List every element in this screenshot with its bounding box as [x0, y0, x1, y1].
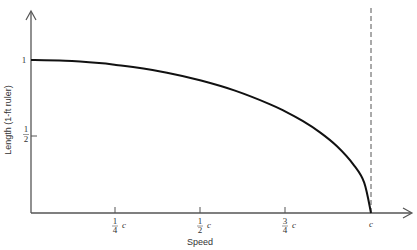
x-tick-three-quarter-c: 3 4 c	[282, 207, 296, 235]
svg-text:c: c	[292, 220, 296, 230]
svg-text:4: 4	[113, 225, 118, 235]
svg-text:c: c	[207, 220, 211, 230]
svg-text:4: 4	[283, 225, 288, 235]
svg-text:c: c	[369, 219, 373, 229]
x-axis-label: Speed	[187, 237, 213, 247]
y-tick-half: 1 2	[23, 124, 37, 144]
length-vs-speed-chart: 1 1 2 1 4 c 1 2 c 3 4 c c Speed Length (…	[0, 0, 417, 250]
svg-text:1: 1	[24, 124, 29, 134]
x-tick-quarter-c: 1 4 c	[112, 207, 126, 235]
y-axis-label: Length (1-ft ruler)	[3, 85, 13, 155]
svg-text:2: 2	[198, 225, 203, 235]
x-tick-c: c	[369, 219, 373, 229]
svg-text:1: 1	[22, 55, 27, 65]
length-curve	[31, 60, 371, 213]
svg-text:c: c	[122, 220, 126, 230]
svg-text:2: 2	[24, 134, 29, 144]
x-tick-half-c: 1 2 c	[197, 207, 211, 235]
